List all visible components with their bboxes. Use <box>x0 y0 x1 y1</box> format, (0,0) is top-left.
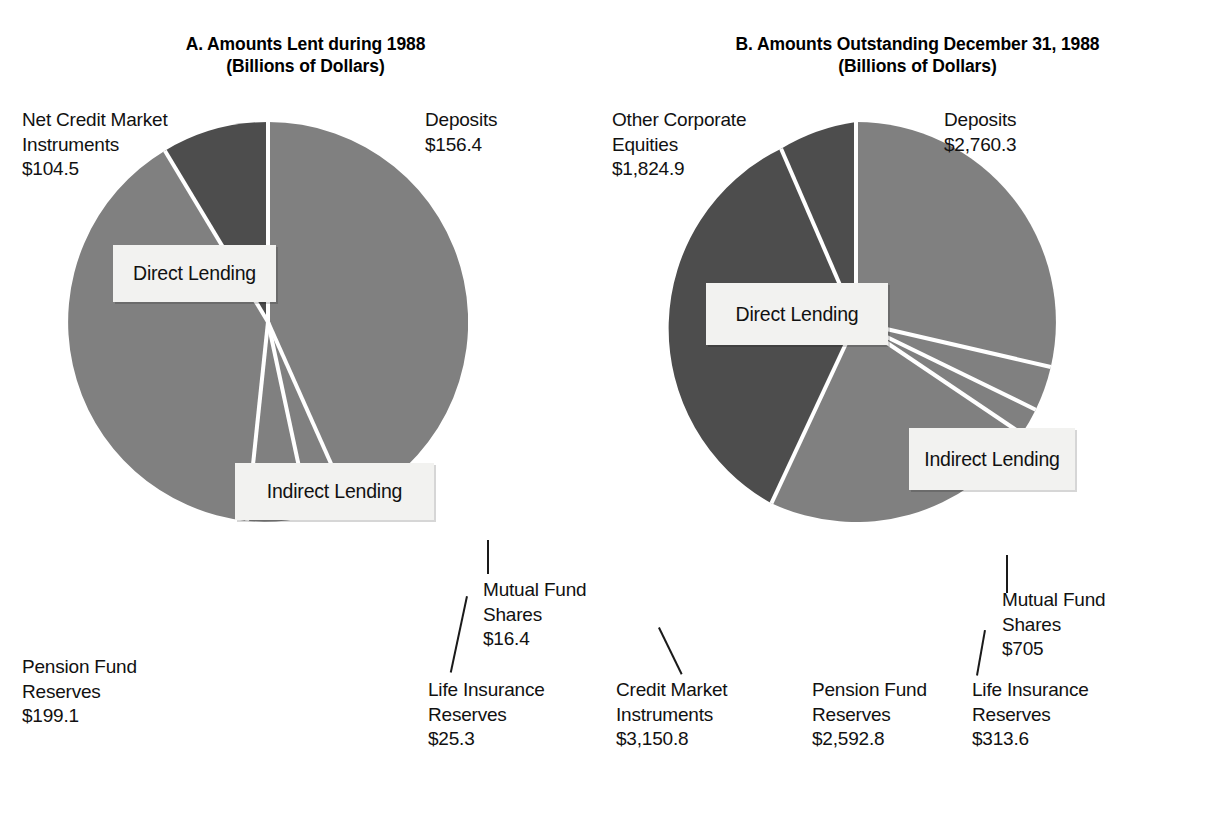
chart-a-callout-direct-lending-label: Direct Lending <box>133 262 256 285</box>
chart-a-leader-life-insurance-reserves <box>450 596 468 673</box>
chart-b-leader-credit-market-instruments <box>658 627 682 674</box>
chart-b-leader-life-insurance-reserves <box>976 630 986 676</box>
chart-a-label-net-credit-market-instruments: Net Credit Market Instruments $104.5 <box>22 108 167 182</box>
chart-b-label-other-corporate-equities: Other Corporate Equities $1,824.9 <box>612 108 746 182</box>
chart-a-title: A. Amounts Lent during 1988 (Billions of… <box>0 33 611 77</box>
chart-a-label-pension-fund-reserves: Pension Fund Reserves $199.1 <box>22 655 137 729</box>
chart-panel-a: A. Amounts Lent during 1988 (Billions of… <box>0 0 611 815</box>
chart-a-callout-direct-lending: Direct Lending <box>113 245 276 302</box>
chart-a-title-line2: (Billions of Dollars) <box>0 55 611 77</box>
chart-b-callout-indirect-lending-label: Indirect Lending <box>924 448 1060 471</box>
chart-a-label-mutual-fund-shares: Mutual Fund Shares $16.4 <box>483 578 586 652</box>
chart-a-callout-indirect-lending: Indirect Lending <box>235 463 434 520</box>
chart-a-leader-mutual-fund-shares <box>487 540 489 574</box>
chart-b-callout-direct-lending: Direct Lending <box>706 283 888 345</box>
chart-a-title-line1: A. Amounts Lent during 1988 <box>186 34 426 54</box>
chart-b-label-credit-market-instruments: Credit Market Instruments $3,150.8 <box>616 678 727 752</box>
chart-b-label-deposits: Deposits $2,760.3 <box>944 108 1016 157</box>
chart-a-label-life-insurance-reserves: Life Insurance Reserves $25.3 <box>428 678 545 752</box>
chart-b-title-line2: (Billions of Dollars) <box>612 55 1223 77</box>
chart-b-callout-indirect-lending: Indirect Lending <box>909 428 1075 490</box>
chart-b-label-pension-fund-reserves: Pension Fund Reserves $2,592.8 <box>812 678 927 752</box>
chart-a-callout-indirect-lending-label: Indirect Lending <box>267 480 403 503</box>
chart-b-label-mutual-fund-shares: Mutual Fund Shares $705 <box>1002 588 1105 662</box>
chart-panel-b: B. Amounts Outstanding December 31, 1988… <box>612 0 1223 815</box>
figure-root: A. Amounts Lent during 1988 (Billions of… <box>0 0 1223 815</box>
chart-b-leader-mutual-fund-shares <box>1006 555 1008 593</box>
chart-a-label-deposits: Deposits $156.4 <box>425 108 497 157</box>
pie-a-svg <box>68 122 468 522</box>
chart-b-title: B. Amounts Outstanding December 31, 1988… <box>612 33 1223 77</box>
chart-b-callout-direct-lending-label: Direct Lending <box>736 303 859 326</box>
pie-chart-a <box>68 122 468 522</box>
chart-b-label-life-insurance-reserves: Life Insurance Reserves $313.6 <box>972 678 1089 752</box>
chart-b-title-line1: B. Amounts Outstanding December 31, 1988 <box>736 34 1100 54</box>
